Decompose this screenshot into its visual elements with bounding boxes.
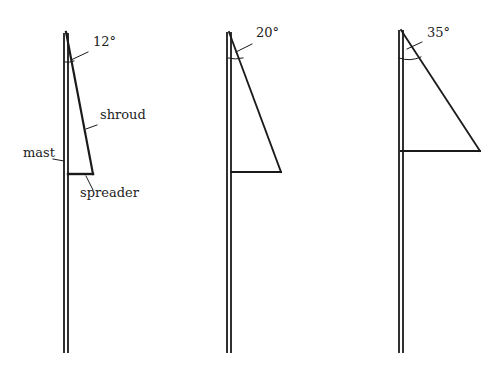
shroud-label: shroud — [100, 107, 146, 122]
angle-label-12: 12° — [93, 34, 116, 49]
spreader-label: spreader — [80, 185, 140, 200]
angle-label-20: 20° — [256, 25, 279, 40]
rig-diagram-35 — [399, 30, 480, 352]
angle-arc — [228, 58, 243, 59]
shroud-leader — [86, 125, 97, 129]
angle-leader — [71, 52, 88, 60]
shroud — [66, 32, 93, 174]
shroud — [401, 30, 480, 151]
rig-diagram-20 — [227, 32, 281, 352]
shroud — [229, 32, 281, 172]
angle-leader — [236, 44, 252, 52]
mast-label: mast — [23, 145, 56, 160]
spreader-angle-diagram: 12° shroud mast spreader 20° 35° — [0, 0, 493, 372]
angle-label-35: 35° — [427, 25, 450, 40]
